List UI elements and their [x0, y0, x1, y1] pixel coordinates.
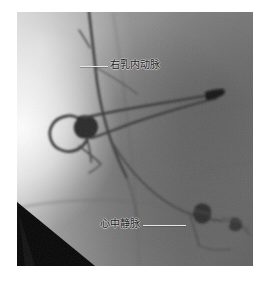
leader-line-middle-cardiac-vein — [143, 225, 186, 226]
leader-line-right-internal-mammary-artery — [80, 66, 108, 67]
label-middle-cardiac-vein: 心中静脉 — [100, 219, 140, 229]
label-right-internal-mammary-artery: 右乳内动脉 — [110, 60, 160, 70]
screenshot-root: 右乳内动脉 心中静脉 — [0, 0, 267, 283]
